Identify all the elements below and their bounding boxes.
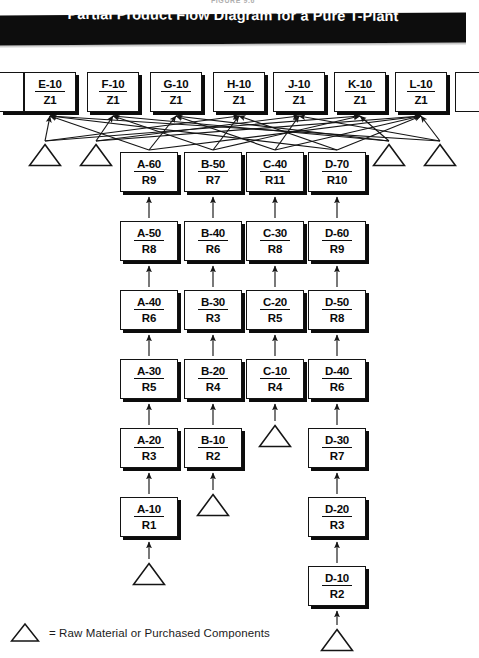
routing-code: R3 (206, 312, 220, 324)
part-number: A-20 (134, 434, 164, 448)
part-number: B-40 (198, 227, 228, 241)
part-box-d-10[interactable]: D-10R2 (308, 566, 366, 606)
raw-material-triangle-b[interactable] (196, 493, 230, 517)
part-number (465, 91, 471, 92)
part-number: C-20 (260, 296, 290, 310)
part-number: D-70 (322, 158, 352, 172)
part-box-a-50[interactable]: A-50R8 (120, 221, 178, 261)
routing-code: R5 (268, 312, 282, 324)
feeder-triangle-3[interactable] (372, 143, 406, 167)
part-number: A-40 (134, 296, 164, 310)
part-box-a-10[interactable]: A-10R1 (120, 497, 178, 537)
flow-arrow (213, 116, 239, 150)
part-number: G-10 (161, 78, 192, 92)
part-box-c-30[interactable]: C-30R8 (246, 221, 304, 261)
part-number: H-10 (224, 78, 254, 92)
routing-code: Z1 (232, 94, 245, 106)
routing-code: Z1 (414, 94, 427, 106)
flow-arrow (299, 116, 440, 141)
part-number: D-40 (322, 365, 352, 379)
routing-code: R6 (142, 312, 156, 324)
routing-code: R3 (330, 519, 344, 531)
flow-arrow (96, 116, 113, 141)
triangle-symbol-icon (10, 622, 40, 643)
part-number: L-10 (407, 78, 436, 92)
part-number: B-30 (198, 296, 228, 310)
flow-arrow (176, 116, 389, 141)
routing-code: R7 (206, 174, 220, 186)
z1-box-l-10[interactable]: L-10Z1 (395, 72, 447, 112)
part-box-d-20[interactable]: D-20R3 (308, 497, 366, 537)
part-number: A-50 (134, 227, 164, 241)
routing-code: R1 (142, 519, 156, 531)
part-number: D-20 (322, 503, 352, 517)
z1-box-partial-8[interactable] (455, 72, 479, 112)
part-number: A-60 (134, 158, 164, 172)
flow-arrow (239, 116, 337, 150)
flow-arrow (45, 116, 239, 141)
part-number: D-10 (322, 572, 352, 586)
part-number: C-30 (260, 227, 290, 241)
part-box-c-20[interactable]: C-20R5 (246, 290, 304, 330)
part-box-b-30[interactable]: B-30R3 (184, 290, 242, 330)
part-box-b-20[interactable]: B-20R4 (184, 359, 242, 399)
raw-material-triangle-a[interactable] (132, 562, 166, 586)
raw-material-triangle-d[interactable] (320, 628, 354, 652)
routing-code: R10 (327, 174, 348, 186)
routing-code: R7 (330, 450, 344, 462)
flow-arrow (421, 116, 440, 141)
part-number: C-40 (260, 158, 290, 172)
part-number (9, 91, 15, 92)
part-box-a-60[interactable]: A-60R9 (120, 152, 178, 192)
routing-code: R9 (330, 243, 344, 255)
flow-arrow (176, 116, 275, 150)
part-box-b-40[interactable]: B-40R6 (184, 221, 242, 261)
part-number: K-10 (345, 78, 375, 92)
feeder-triangle-4[interactable] (423, 143, 457, 167)
part-number: D-60 (322, 227, 352, 241)
part-number: D-30 (322, 434, 352, 448)
routing-code: R4 (268, 381, 282, 393)
routing-code: R8 (142, 243, 156, 255)
z1-box-e-10[interactable]: E-10Z1 (24, 72, 76, 112)
part-box-d-60[interactable]: D-60R9 (308, 221, 366, 261)
part-box-b-10[interactable]: B-10R2 (184, 428, 242, 468)
z1-box-partial-0[interactable] (0, 72, 24, 112)
routing-code: R2 (330, 588, 344, 600)
part-number: C-10 (260, 365, 290, 379)
flow-arrow (360, 116, 389, 141)
part-number: A-30 (134, 365, 164, 379)
part-number: E-10 (35, 78, 65, 92)
part-box-d-50[interactable]: D-50R8 (308, 290, 366, 330)
part-box-a-30[interactable]: A-30R5 (120, 359, 178, 399)
routing-code: R6 (330, 381, 344, 393)
part-box-d-40[interactable]: D-40R6 (308, 359, 366, 399)
part-box-a-20[interactable]: A-20R3 (120, 428, 178, 468)
z1-box-h-10[interactable]: H-10Z1 (213, 72, 265, 112)
z1-box-k-10[interactable]: K-10Z1 (334, 72, 386, 112)
z1-box-g-10[interactable]: G-10Z1 (150, 72, 202, 112)
z1-box-f-10[interactable]: F-10Z1 (87, 72, 139, 112)
part-number: B-10 (198, 434, 228, 448)
routing-code: Z1 (169, 94, 182, 106)
part-box-d-30[interactable]: D-30R7 (308, 428, 366, 468)
routing-code: Z1 (292, 94, 305, 106)
z1-box-j-10[interactable]: J-10Z1 (273, 72, 325, 112)
part-number: J-10 (285, 78, 313, 92)
routing-code: R2 (206, 450, 220, 462)
part-box-c-10[interactable]: C-10R4 (246, 359, 304, 399)
feeder-triangle-1[interactable] (28, 143, 62, 167)
raw-material-triangle-c[interactable] (258, 424, 292, 448)
part-box-b-50[interactable]: B-50R7 (184, 152, 242, 192)
feeder-triangle-2[interactable] (79, 143, 113, 167)
part-number: B-50 (198, 158, 228, 172)
flow-arrow (45, 116, 50, 141)
flow-arrow (275, 116, 299, 150)
routing-code: R5 (142, 381, 156, 393)
part-box-a-40[interactable]: A-40R6 (120, 290, 178, 330)
flow-arrow (50, 116, 440, 141)
part-box-c-40[interactable]: C-40R11 (246, 152, 304, 192)
legend-label: = Raw Material or Purchased Components (49, 627, 270, 639)
part-box-d-70[interactable]: D-70R10 (308, 152, 366, 192)
flow-arrow (113, 116, 389, 141)
